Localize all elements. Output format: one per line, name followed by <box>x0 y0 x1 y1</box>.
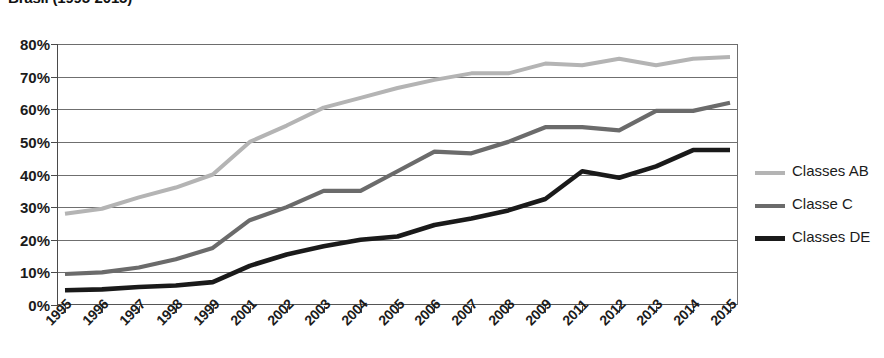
y-axis-tick-mark <box>51 77 58 78</box>
y-axis-tick-label: 60% <box>2 101 50 118</box>
legend-label: Classes DE <box>792 228 870 245</box>
y-axis-tick-mark <box>51 207 58 208</box>
y-axis-tick-label: 0% <box>2 297 50 314</box>
y-axis-tick-label: 40% <box>2 166 50 183</box>
series-line-classe-c <box>65 103 730 274</box>
y-axis-tick-label: 30% <box>2 199 50 216</box>
series-line-classes-ab <box>65 57 730 214</box>
y-axis-tick-label: 20% <box>2 231 50 248</box>
y-axis-label-group: 80%70%60%50%40%30%20%10%0% <box>0 0 50 358</box>
y-axis-tick-mark <box>51 240 58 241</box>
legend-color-swatch-icon <box>755 171 785 175</box>
legend-label: Classes AB <box>792 162 869 179</box>
y-axis-tick-label: 50% <box>2 133 50 150</box>
legend-item[interactable]: Classes DE <box>752 224 882 257</box>
y-axis-tick-mark <box>51 175 58 176</box>
legend-item[interactable]: Classes AB <box>752 158 882 191</box>
legend-label: Classe C <box>792 195 853 212</box>
chart-legend: Classes ABClasse CClasses DE <box>752 158 882 257</box>
y-axis-tick-mark <box>51 272 58 273</box>
y-axis-tick-mark <box>51 44 58 45</box>
y-axis-tick-label: 70% <box>2 68 50 85</box>
series-layer <box>57 44 738 305</box>
y-axis-tick-label: 10% <box>2 264 50 281</box>
y-axis-tick-mark <box>51 142 58 143</box>
line-chart: Brasil (1995-2015) 80%70%60%50%40%30%20%… <box>0 0 884 358</box>
legend-color-swatch-icon <box>755 236 785 241</box>
y-axis-tick-label: 80% <box>2 36 50 53</box>
legend-item[interactable]: Classe C <box>752 191 882 224</box>
y-axis-tick-mark <box>51 109 58 110</box>
legend-color-swatch-icon <box>755 204 785 208</box>
